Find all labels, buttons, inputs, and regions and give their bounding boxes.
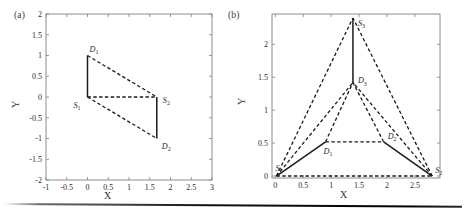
y-tick-label: -1.5: [29, 155, 42, 164]
panel-b-plot: 00.511.522.500.511.52S1S2S3D1D2D3: [234, 0, 468, 213]
x-tick-label: -0.5: [60, 183, 73, 192]
edge-S1-S3: [276, 18, 352, 176]
figure-container: (a) -1-0.500.511.522.5321.510.50-0.5-1-1…: [0, 0, 468, 213]
x-tick-label: 2.5: [186, 183, 196, 192]
point-label-D2: D2: [161, 142, 171, 152]
edge-D2-D3: [353, 82, 384, 141]
edge-S1-D2: [88, 97, 157, 139]
x-tick-label: 2: [385, 181, 389, 190]
y-tick-label: -0.5: [29, 114, 42, 123]
x-tick-label: 1.5: [145, 183, 155, 192]
point-label-D1: D1: [89, 45, 99, 55]
point-label-S1: S1: [74, 101, 81, 111]
y-tick-label: 2: [264, 40, 268, 49]
panel-a: (a) -1-0.500.511.522.5321.510.50-0.5-1-1…: [0, 0, 234, 213]
y-tick-label: 1.5: [32, 31, 42, 40]
x-tick-label: 1: [127, 183, 131, 192]
x-tick-label: 1: [329, 181, 333, 190]
edge-D1-D3: [326, 82, 353, 141]
panel-a-tag: (a): [14, 10, 25, 20]
y-tick-label: 1: [38, 51, 42, 60]
panel-b: (b) 00.511.522.500.511.52S1S2S3D1D2D3 X …: [234, 0, 468, 213]
x-tick-label: -1: [43, 183, 50, 192]
x-tick-label: 2: [169, 183, 173, 192]
point-label-D3: D3: [357, 76, 367, 86]
panel-a-plot: -1-0.500.511.522.5321.510.50-0.5-1-1.5-2…: [0, 0, 234, 213]
panel-a-xlabel: X: [104, 190, 111, 201]
y-tick-label: -1: [35, 134, 42, 143]
point-label-S2: S2: [435, 166, 442, 176]
point-label-S1: S1: [275, 164, 282, 174]
y-tick-label: 1: [264, 106, 268, 115]
x-tick-label: 0: [86, 183, 90, 192]
panel-b-ylabel: Y: [236, 98, 247, 105]
x-tick-label: 0: [273, 181, 277, 190]
y-tick-label: 0: [264, 172, 268, 181]
y-tick-label: 0: [38, 93, 42, 102]
x-tick-label: 0.5: [298, 181, 308, 190]
point-label-S3: S3: [358, 19, 365, 29]
edge-D1-S2: [88, 56, 157, 98]
panel-a-ylabel: Y: [10, 101, 21, 108]
y-tick-label: -2: [35, 176, 42, 185]
y-tick-label: 0.5: [258, 139, 268, 148]
x-tick-label: 1.5: [354, 181, 364, 190]
y-tick-label: 1.5: [258, 73, 268, 82]
x-tick-label: 3: [210, 183, 214, 192]
point-label-D1: D1: [323, 147, 333, 157]
panel-b-tag: (b): [228, 10, 240, 20]
x-tick-label: 2.5: [410, 181, 420, 190]
point-label-D2: D2: [387, 132, 397, 142]
y-tick-label: 0.5: [32, 72, 42, 81]
edge-S2-S3: [353, 18, 432, 176]
point-label-S2: S2: [163, 96, 170, 106]
y-tick-label: 2: [38, 10, 42, 19]
panel-b-xlabel: X: [340, 189, 347, 200]
